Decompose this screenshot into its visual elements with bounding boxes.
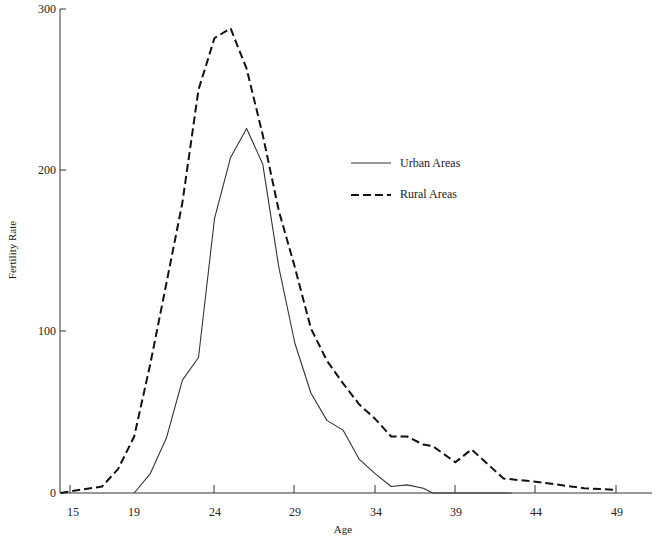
y-tick-label-200: 200	[38, 163, 56, 177]
x-tick-label-15: 15	[67, 505, 79, 519]
x-tick-label-29: 29	[289, 505, 301, 519]
y-axis-title: Fertility Rate	[6, 221, 18, 279]
x-ticks: 15 19 24 29 34 39 44 49	[67, 485, 623, 519]
rural-areas-line	[60, 28, 616, 493]
y-tick-label-300: 300	[38, 2, 56, 16]
legend-label-rural: Rural Areas	[400, 187, 457, 201]
y-tick-label-100: 100	[38, 324, 56, 338]
y-ticks: 300 200 100 0	[38, 2, 66, 500]
x-tick-label-39: 39	[450, 505, 462, 519]
x-tick-label-49: 49	[611, 505, 623, 519]
x-tick-label-34: 34	[370, 505, 382, 519]
legend: Urban Areas Rural Areas	[351, 156, 461, 201]
x-tick-label-24: 24	[209, 505, 221, 519]
x-tick-label-19: 19	[128, 505, 140, 519]
legend-label-urban: Urban Areas	[400, 156, 461, 170]
urban-areas-line	[134, 128, 511, 493]
y-tick-label-0: 0	[50, 486, 56, 500]
fertility-rate-chart: 300 200 100 0 15 19 24 29 34 39 44 49 Ag…	[0, 0, 659, 545]
x-tick-label-44: 44	[530, 505, 542, 519]
x-axis-title: Age	[334, 523, 352, 535]
